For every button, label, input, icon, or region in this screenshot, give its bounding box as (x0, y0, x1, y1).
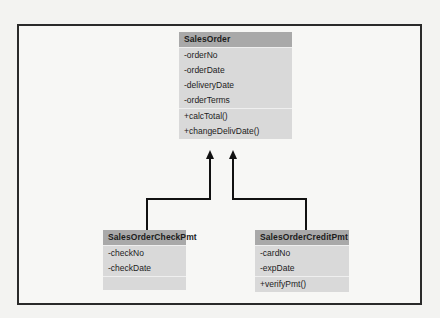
operations-compartment: +verifyPmt() (255, 276, 349, 292)
creditpmt-to-salesorder-link (233, 157, 306, 230)
attribute: -deliveryDate (179, 78, 292, 93)
attribute: -checkNo (103, 246, 186, 261)
attribute: -orderTerms (179, 93, 292, 108)
operations-compartment: +calcTotal() +changeDelivDate() (179, 108, 292, 139)
attribute: -expDate (255, 261, 349, 276)
attribute: -cardNo (255, 246, 349, 261)
attributes-compartment: -checkNo -checkDate (103, 245, 186, 276)
operation: +calcTotal() (179, 109, 292, 124)
class-name: SalesOrder (179, 32, 292, 47)
class-sales-order-credit-pmt[interactable]: SalesOrderCreditPmt -cardNo -expDate +ve… (255, 230, 349, 292)
arrowhead-icon (229, 150, 237, 159)
operation: +changeDelivDate() (179, 124, 292, 139)
attributes-compartment: -cardNo -expDate (255, 245, 349, 276)
class-name: SalesOrderCreditPmt (255, 230, 349, 245)
class-sales-order[interactable]: SalesOrder -orderNo -orderDate -delivery… (179, 32, 292, 139)
operations-compartment (103, 276, 186, 290)
attribute: -orderNo (179, 48, 292, 63)
checkpmt-to-salesorder-link (147, 157, 210, 230)
arrowhead-icon (206, 150, 214, 159)
attribute: -checkDate (103, 261, 186, 276)
attributes-compartment: -orderNo -orderDate -deliveryDate -order… (179, 47, 292, 108)
class-sales-order-check-pmt[interactable]: SalesOrderCheckPmt -checkNo -checkDate (103, 230, 186, 290)
class-name: SalesOrderCheckPmt (103, 230, 186, 245)
attribute: -orderDate (179, 63, 292, 78)
operation: +verifyPmt() (255, 277, 349, 292)
